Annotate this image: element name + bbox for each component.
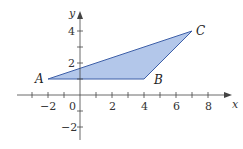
x-tick-label: 8 [205, 100, 212, 113]
x-tick-label: 6 [173, 100, 180, 113]
x-tick-label: 4 [141, 100, 148, 113]
triangle-abc [48, 31, 192, 79]
x-axis-arrow-icon [224, 92, 232, 98]
point-label-b: B [153, 73, 163, 87]
y-tick-label: 2 [68, 57, 75, 70]
y-axis-label: y [68, 7, 76, 20]
x-axis [17, 92, 228, 98]
y-axis-arrow-icon [77, 11, 83, 19]
x-tick-label: −2 [40, 100, 56, 113]
x-tick-label: 2 [109, 100, 116, 113]
point-label-c: C [196, 24, 205, 38]
triangle-diagram: −2 0 2 4 6 8 4 2 −2 x y A B C [0, 0, 243, 149]
y-tick-label: 4 [68, 25, 75, 38]
x-axis-label: x [232, 98, 239, 111]
y-tick-label: −2 [61, 121, 77, 134]
x-tick-label: 0 [69, 100, 76, 113]
point-label-a: A [34, 72, 44, 86]
